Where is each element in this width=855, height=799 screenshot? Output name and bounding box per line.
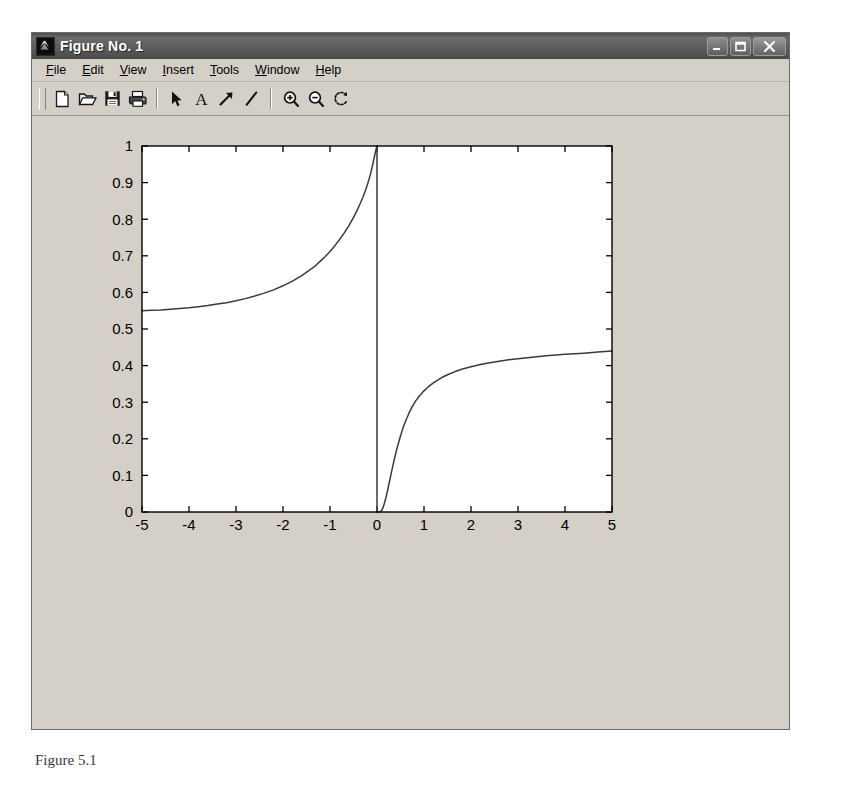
print-figure-button[interactable]: [125, 86, 150, 111]
toolbar-grip[interactable]: [39, 88, 46, 110]
toolbar: A: [32, 82, 789, 116]
x-tick-label: -5: [135, 516, 148, 533]
menu-rest-edit: dit: [91, 63, 104, 77]
menu-rest-insert: nsert: [166, 63, 194, 77]
x-tick-label: 2: [467, 516, 475, 533]
y-tick-label: 0.5: [112, 320, 133, 337]
x-tick-label: 5: [608, 516, 616, 533]
y-axis-tick-labels: 00.10.20.30.40.50.60.70.80.91: [112, 137, 133, 520]
menu-mnemonic-window: W: [255, 63, 267, 77]
magnifier-minus-icon: [307, 90, 325, 108]
rotate-3d-button[interactable]: [328, 86, 353, 111]
x-tick-label: 3: [514, 516, 522, 533]
y-tick-label: 0.8: [112, 211, 133, 228]
menu-item-window[interactable]: Window: [248, 61, 308, 79]
zoom-out-button[interactable]: [303, 86, 328, 111]
y-tick-label: 0.1: [112, 467, 133, 484]
menu-mnemonic-file: F: [46, 63, 54, 77]
menu-rest-view: iew: [128, 63, 147, 77]
maximize-button[interactable]: [730, 37, 751, 56]
toolbar-separator-1: [156, 88, 158, 109]
save-floppy-icon: [104, 90, 121, 107]
x-tick-label: 4: [561, 516, 569, 533]
new-figure-button[interactable]: [50, 86, 75, 111]
figure-caption: Figure 5.1: [35, 752, 97, 769]
figure-window: Figure No. 1: [31, 32, 790, 730]
open-folder-icon: [78, 90, 97, 108]
zoom-in-button[interactable]: [278, 86, 303, 111]
window-title: Figure No. 1: [60, 38, 707, 54]
close-button[interactable]: [753, 37, 786, 56]
menu-item-help[interactable]: Help: [309, 61, 351, 79]
open-file-button[interactable]: [75, 86, 100, 111]
menu-rest-help: elp: [325, 63, 342, 77]
y-tick-label: 0.3: [112, 394, 133, 411]
y-tick-label: 0.2: [112, 430, 133, 447]
menu-rest-file: ile: [54, 63, 67, 77]
minimize-button[interactable]: [707, 37, 728, 56]
x-tick-label: 1: [420, 516, 428, 533]
y-tick-label: 0: [125, 503, 133, 520]
menu-item-insert[interactable]: Insert: [156, 61, 203, 79]
y-tick-label: 0.7: [112, 247, 133, 264]
y-tick-label: 0.9: [112, 174, 133, 191]
magnifier-plus-icon: [282, 90, 300, 108]
matlab-membrane-icon: [36, 37, 55, 56]
title-bar: Figure No. 1: [32, 33, 789, 59]
printer-icon: [128, 90, 147, 108]
x-tick-label: -3: [229, 516, 242, 533]
toolbar-separator-2: [270, 88, 272, 109]
menu-rest-tools: ools: [216, 63, 239, 77]
y-tick-label: 0.4: [112, 357, 133, 374]
arrow-cursor-icon: [169, 90, 184, 108]
x-tick-label: -1: [323, 516, 336, 533]
insert-line-button[interactable]: [239, 86, 264, 111]
x-tick-label: -4: [182, 516, 195, 533]
x-tick-label: 0: [373, 516, 381, 533]
menu-item-view[interactable]: View: [113, 61, 156, 79]
y-tick-label: 1: [125, 137, 133, 154]
plot-area[interactable]: 00.10.20.30.40.50.60.70.80.91 -5-4-3-2-1…: [32, 116, 789, 732]
menu-item-tools[interactable]: Tools: [203, 61, 248, 79]
menu-item-file[interactable]: File: [39, 61, 75, 79]
svg-text:A: A: [195, 90, 208, 108]
x-axis-tick-labels: -5-4-3-2-1012345: [135, 516, 616, 533]
menu-rest-window: indow: [267, 63, 300, 77]
new-document-icon: [54, 90, 71, 108]
insert-arrow-button[interactable]: [214, 86, 239, 111]
arrow-annotation-icon: [218, 90, 235, 107]
menu-mnemonic-edit: E: [82, 63, 90, 77]
window-controls: [707, 37, 786, 56]
menu-item-edit[interactable]: Edit: [75, 61, 113, 79]
save-figure-button[interactable]: [100, 86, 125, 111]
text-a-icon: A: [193, 90, 210, 108]
menu-mnemonic-view: V: [120, 63, 128, 77]
x-tick-label: -2: [276, 516, 289, 533]
y-tick-label: 0.6: [112, 284, 133, 301]
figure-canvas[interactable]: 00.10.20.30.40.50.60.70.80.91 -5-4-3-2-1…: [32, 116, 789, 729]
screenshot-root: Figure No. 1: [0, 0, 855, 799]
edit-plot-button[interactable]: [164, 86, 189, 111]
menu-mnemonic-help: H: [316, 63, 325, 77]
rotate-3d-icon: [332, 90, 350, 108]
menu-bar: File Edit View Insert Tools Window Help: [32, 59, 789, 82]
line-annotation-icon: [244, 90, 259, 107]
insert-text-button[interactable]: A: [189, 86, 214, 111]
